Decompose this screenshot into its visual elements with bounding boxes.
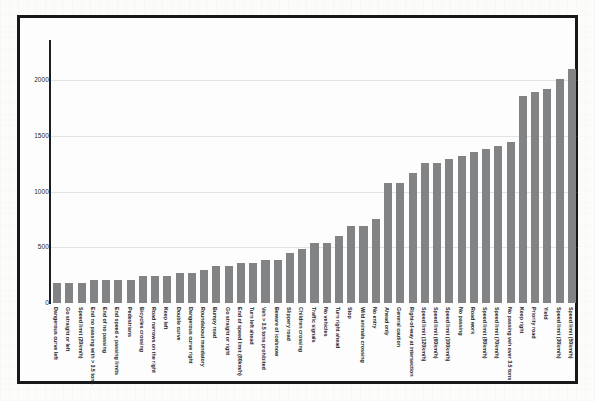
bar[interactable] <box>347 226 355 303</box>
bar-slot <box>249 18 257 303</box>
bar[interactable] <box>237 263 245 303</box>
bar-slot <box>90 18 98 303</box>
bar[interactable] <box>151 276 159 303</box>
bar[interactable] <box>470 152 478 303</box>
bar[interactable] <box>274 260 282 303</box>
bar[interactable] <box>212 266 220 303</box>
bar[interactable] <box>372 219 380 303</box>
figure-frame: 0500100015002000 Dangerous curve leftGo … <box>17 15 578 384</box>
bar[interactable] <box>519 96 527 303</box>
x-axis-tick-label: End of no passing <box>102 307 108 353</box>
bar-slot <box>507 18 515 303</box>
bar[interactable] <box>482 149 490 303</box>
bar-slot <box>335 18 343 303</box>
bar[interactable] <box>249 263 257 303</box>
bar[interactable] <box>409 173 417 303</box>
bar[interactable] <box>421 163 429 303</box>
x-axis-tick-label: Speed limit (30km/h) <box>556 307 562 358</box>
bar[interactable] <box>261 260 269 303</box>
bar-slot <box>188 18 196 303</box>
bar[interactable] <box>200 270 208 303</box>
bar-series <box>51 18 578 303</box>
bar[interactable] <box>298 249 306 303</box>
bar[interactable] <box>127 280 135 303</box>
bar-slot <box>114 18 122 303</box>
bar-slot <box>139 18 147 303</box>
bar-slot <box>323 18 331 303</box>
x-axis-tick-label: Right-of-way at intersection <box>409 307 415 377</box>
bar-slot <box>65 18 73 303</box>
x-axis-tick-label: Ahead only <box>384 307 390 336</box>
bar-slot <box>237 18 245 303</box>
bar[interactable] <box>458 156 466 303</box>
bar[interactable] <box>384 183 392 303</box>
bar-slot <box>127 18 135 303</box>
bar[interactable] <box>531 92 539 303</box>
x-axis-tick-label: Roundabout mandatory <box>200 307 206 367</box>
bar[interactable] <box>445 159 453 303</box>
bar[interactable] <box>507 142 515 303</box>
bar[interactable] <box>139 276 147 303</box>
x-axis-tick-label: No passing <box>458 307 464 336</box>
bar-slot <box>409 18 417 303</box>
bar[interactable] <box>90 280 98 303</box>
x-axis-tick-label: Pedestrians <box>127 307 133 337</box>
bar-slot <box>102 18 110 303</box>
bar-slot <box>445 18 453 303</box>
x-axis-tick-label: End of speed limit (80km/h) <box>237 307 243 376</box>
bar[interactable] <box>335 236 343 303</box>
bar[interactable] <box>188 273 196 303</box>
bar[interactable] <box>433 163 441 303</box>
y-axis-tick-label: 2000 <box>23 76 49 83</box>
x-axis-tick-label: Turn right ahead <box>335 307 341 348</box>
bar[interactable] <box>494 146 502 303</box>
bar-slot <box>163 18 171 303</box>
bar[interactable] <box>310 243 318 303</box>
x-axis-tick-label: Bumpy road <box>212 307 218 338</box>
bar[interactable] <box>163 276 171 303</box>
bar[interactable] <box>65 283 73 303</box>
bar-slot <box>78 18 86 303</box>
x-axis-tick-label: Stop <box>347 307 353 319</box>
bar[interactable] <box>53 283 61 303</box>
bar[interactable] <box>359 226 367 303</box>
bar-slot <box>347 18 355 303</box>
bar-slot <box>359 18 367 303</box>
bar-slot <box>53 18 61 303</box>
x-axis-tick-label: Road narrows on the right <box>151 307 157 373</box>
bar[interactable] <box>323 243 331 303</box>
x-axis-tick-label: Speed limit (70km/h) <box>494 307 500 358</box>
bar-slot <box>482 18 490 303</box>
bar[interactable] <box>396 183 404 303</box>
x-axis-tick-label: Speed limit (120km/h) <box>421 307 427 361</box>
bar[interactable] <box>225 266 233 303</box>
bar[interactable] <box>556 79 564 303</box>
bar[interactable] <box>102 280 110 303</box>
bar-slot <box>531 18 539 303</box>
bar-slot <box>519 18 527 303</box>
bar[interactable] <box>114 280 122 303</box>
x-axis-tick-label: No passing veh over 3.5 tons <box>507 307 513 380</box>
bar[interactable] <box>78 283 86 303</box>
bar-slot <box>200 18 208 303</box>
bar-slot <box>543 18 551 303</box>
y-axis-tick-label: 1000 <box>23 188 49 195</box>
x-axis-tick-label: Beware of ice/snow <box>274 307 280 356</box>
x-axis-tick-label: Veh > 3.5 tons prohibited <box>261 307 267 370</box>
x-axis-tick-label: No entry <box>372 307 378 328</box>
bar-slot <box>433 18 441 303</box>
bar[interactable] <box>286 253 294 303</box>
bar-slot <box>212 18 220 303</box>
bar-slot <box>298 18 306 303</box>
bar[interactable] <box>568 69 576 303</box>
y-axis-tick-label: 500 <box>23 243 49 250</box>
x-axis-tick-label: General caution <box>396 307 402 347</box>
x-axis-tick-label: Children crossing <box>298 307 304 352</box>
x-axis-tick-label: Bicycles crossing <box>139 307 145 352</box>
bar-slot <box>261 18 269 303</box>
bar-slot <box>384 18 392 303</box>
x-axis-tick-label: End speed + passing limits <box>114 307 120 375</box>
bar[interactable] <box>176 273 184 303</box>
bar-slot <box>176 18 184 303</box>
bar[interactable] <box>543 89 551 303</box>
